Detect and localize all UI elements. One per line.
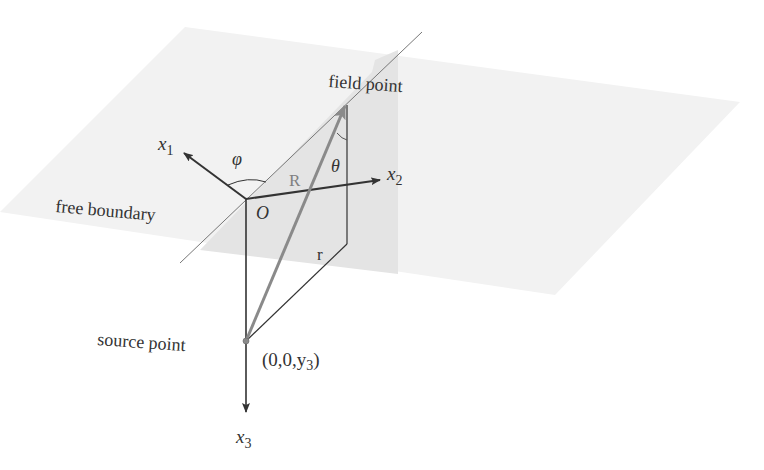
x3-label: x3 <box>235 426 251 451</box>
origin-label: O <box>256 203 269 223</box>
theta-label: θ <box>331 156 340 176</box>
phi-label: φ <box>232 149 242 169</box>
coordinate-diagram: field point free boundary source point O… <box>0 0 764 470</box>
R-label: R <box>289 171 301 190</box>
source-point-label: source point <box>97 329 187 355</box>
source-point-marker <box>243 338 249 344</box>
source-coords-label: (0,0,y3) <box>262 349 320 373</box>
r-label: r <box>317 245 323 264</box>
